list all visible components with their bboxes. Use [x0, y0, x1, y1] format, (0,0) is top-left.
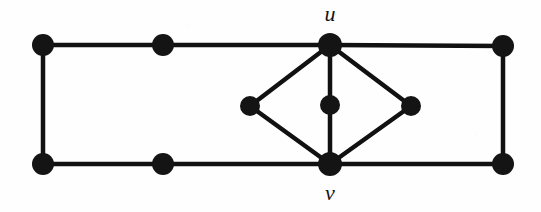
node-v [318, 152, 342, 176]
node-diamond-left [240, 96, 260, 116]
node-bottom-left [32, 153, 54, 175]
node-diamond-right [401, 96, 421, 116]
node-bottom-right [492, 153, 514, 175]
node-top-middle [152, 34, 174, 56]
graph-canvas [0, 0, 541, 212]
node-top-right [492, 35, 514, 57]
edge-u-to-diamond-left [250, 45, 330, 106]
nodes-layer [32, 33, 514, 176]
edges-layer [43, 45, 503, 164]
edge-diamond-right-to-v [330, 106, 411, 164]
node-u [318, 33, 342, 57]
edge-u-to-diamond-right [330, 45, 411, 106]
node-diamond-center [320, 95, 340, 115]
edge-u-to-top-right [330, 45, 503, 46]
label-u: u [325, 3, 336, 25]
label-v: v [325, 182, 335, 204]
node-top-left [32, 34, 54, 56]
graph-figure: uv [0, 0, 541, 212]
node-bottom-middle [152, 153, 174, 175]
edge-diamond-left-to-v [250, 106, 330, 164]
